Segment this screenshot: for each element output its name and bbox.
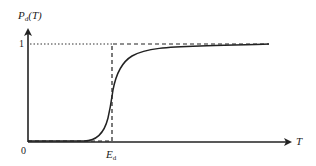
x-tick-ed: Ed <box>106 149 116 162</box>
y-axis-label-arg: (T) <box>28 9 41 21</box>
chart-plot <box>0 0 316 166</box>
y-axis-label: Pd(T) <box>18 10 42 23</box>
x-tick-ed-main: E <box>106 148 113 160</box>
origin-label: 0 <box>21 146 26 156</box>
y-tick-one: 1 <box>19 39 24 49</box>
y-axis-label-main: P <box>18 9 25 21</box>
x-tick-ed-sub: d <box>113 154 117 162</box>
sigmoid-curve <box>28 44 269 141</box>
step-function-dashed <box>28 44 269 141</box>
x-axis-label: T <box>296 136 302 147</box>
